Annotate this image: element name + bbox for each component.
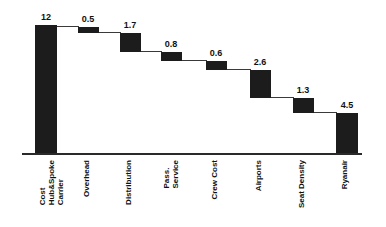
value-label-crew-cost: 0.6	[195, 48, 237, 58]
connector-7	[313, 112, 337, 113]
category-label-text-pass-service: Pass.Service	[162, 160, 180, 188]
value-label-ryanair: 4.5	[326, 100, 368, 110]
category-label-line: Airports	[254, 160, 263, 191]
category-label-text-crew-cost: Crew Cost	[210, 160, 219, 200]
connector-4	[181, 60, 207, 61]
connector-3	[140, 51, 162, 52]
value-label-airports: 2.6	[239, 57, 281, 67]
category-label-line: Hub&Spoke	[47, 160, 56, 205]
value-label-overhead: 0.5	[67, 14, 109, 24]
bar-overhead[interactable]	[78, 27, 99, 33]
category-label-line: Pass.	[162, 160, 171, 188]
bar-seat-density[interactable]	[293, 98, 314, 113]
plot-area: 12 0.5 1.7 0.8 0.6 2.6 1.3 4.5 CostHub&S…	[0, 0, 386, 227]
category-label-text-distribution: Distribution	[124, 160, 133, 205]
x-axis-baseline	[22, 153, 362, 155]
bar-ryanair[interactable]	[336, 113, 358, 153]
waterfall-chart: 12 0.5 1.7 0.8 0.6 2.6 1.3 4.5 CostHub&S…	[0, 0, 386, 227]
value-label-distribution: 1.7	[109, 20, 151, 30]
category-label-text-ryanair: Ryanair	[340, 160, 349, 189]
category-label-text-seat-density: Seat Density	[297, 160, 306, 208]
category-label-line: Distribution	[124, 160, 133, 205]
connector-5	[226, 69, 251, 70]
category-label-line: Cost	[38, 160, 47, 205]
bar-crew-cost[interactable]	[206, 61, 227, 70]
bar-cost-hub-spoke-carrier[interactable]	[35, 25, 57, 153]
category-label-line: Carrier	[56, 160, 65, 205]
category-label-line: Ryanair	[340, 160, 349, 189]
bar-distribution[interactable]	[120, 33, 141, 52]
category-label-line: Crew Cost	[210, 160, 219, 200]
category-label-line: Seat Density	[297, 160, 306, 208]
category-label-text-overhead: Overhead	[82, 160, 91, 197]
category-label-text-cost-hub-spoke-carrier: CostHub&SpokeCarrier	[38, 160, 65, 205]
value-label-seat-density: 1.3	[282, 85, 324, 95]
value-label-pass-service: 0.8	[150, 39, 192, 49]
category-label-text-airports: Airports	[254, 160, 263, 191]
bar-airports[interactable]	[250, 70, 271, 98]
category-label-line: Service	[171, 160, 180, 188]
connector-2	[98, 32, 121, 33]
category-label-line: Overhead	[82, 160, 91, 197]
connector-1	[56, 26, 79, 27]
bar-pass-service[interactable]	[161, 52, 182, 61]
connector-6	[270, 97, 294, 98]
value-label-cost-hub-spoke-carrier: 12	[25, 12, 67, 22]
